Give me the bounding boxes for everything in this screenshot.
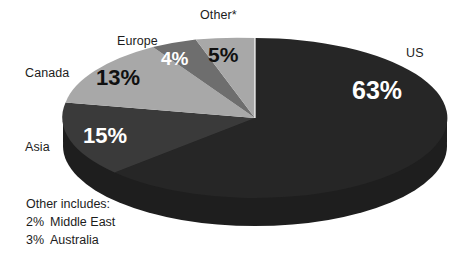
pie-chart-figure: Canada Asia Europe Other* US 63% 15% 13%… [0, 0, 474, 268]
footnote-block: Other includes: 2%Middle East 3%Australi… [26, 196, 115, 249]
footnote-item-name: Australia [50, 233, 99, 247]
value-label-canada: 13% [96, 67, 140, 89]
value-label-asia: 15% [83, 125, 127, 147]
value-label-other: 5% [208, 44, 238, 65]
footnote-item-percent: 3% [26, 232, 50, 249]
footnote-item: 2%Middle East [26, 214, 115, 231]
value-label-europe: 4% [161, 49, 188, 68]
footnote-item-name: Middle East [50, 215, 115, 229]
category-label-europe: Europe [117, 35, 158, 48]
category-label-canada: Canada [25, 67, 69, 80]
footnote-title: Other includes: [26, 196, 115, 213]
category-label-asia: Asia [25, 141, 50, 154]
category-label-other: Other* [200, 9, 237, 22]
footnote-item: 3%Australia [26, 232, 115, 249]
footnote-item-percent: 2% [26, 214, 50, 231]
value-label-us: 63% [352, 78, 402, 103]
category-label-us: US [406, 47, 424, 60]
